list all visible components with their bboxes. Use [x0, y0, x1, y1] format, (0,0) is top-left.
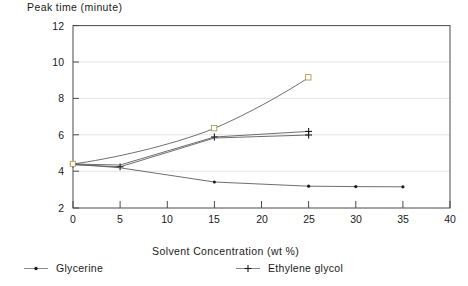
series-ethylene-glycol-a: [73, 128, 312, 165]
plot-frame: [73, 26, 450, 208]
plus-marker-icon: [245, 265, 252, 272]
series-upper-curve: [73, 75, 311, 164]
y-tick-label-4: 4: [2, 165, 64, 177]
x-tickmarks: [73, 201, 450, 208]
x-axis-title: Solvent Concentration (wt %): [152, 245, 299, 257]
y-tick-label-2: 2: [2, 202, 64, 214]
data-point-marker: [305, 132, 312, 139]
x-tick-label-25: 25: [295, 213, 323, 225]
x-tick-label-35: 35: [389, 213, 417, 225]
gridlines: [73, 62, 450, 171]
y-tick-label-12: 12: [2, 20, 64, 32]
dot-marker-icon: [34, 267, 37, 270]
x-tick-label-0: 0: [59, 213, 87, 225]
y-tick-label-10: 10: [2, 56, 64, 68]
data-point-marker: [306, 75, 311, 80]
x-tick-label-10: 10: [153, 213, 181, 225]
x-tick-label-15: 15: [200, 213, 228, 225]
x-tick-label-40: 40: [436, 213, 464, 225]
x-tick-label-5: 5: [106, 213, 134, 225]
y-tick-label-6: 6: [2, 129, 64, 141]
data-point-marker: [213, 181, 216, 184]
series-glycerine: [73, 164, 405, 188]
chart-title: Peak time (minute): [27, 1, 122, 13]
data-point-marker: [401, 185, 404, 188]
data-point-marker: [211, 125, 216, 130]
legend-item-glycerine: Glycerine: [56, 262, 103, 274]
x-tick-label-30: 30: [342, 213, 370, 225]
y-tickmarks: [73, 26, 79, 208]
chart-figure: Peak time (minute): [0, 0, 468, 286]
data-point-marker: [354, 185, 357, 188]
legend-item-ethylene-glycol: Ethylene glycol: [268, 262, 343, 274]
x-tick-label-20: 20: [248, 213, 276, 225]
data-point-marker: [307, 185, 310, 188]
plot-canvas: [0, 0, 468, 286]
origin-marker-cluster: [70, 161, 77, 168]
y-tick-label-8: 8: [2, 92, 64, 104]
